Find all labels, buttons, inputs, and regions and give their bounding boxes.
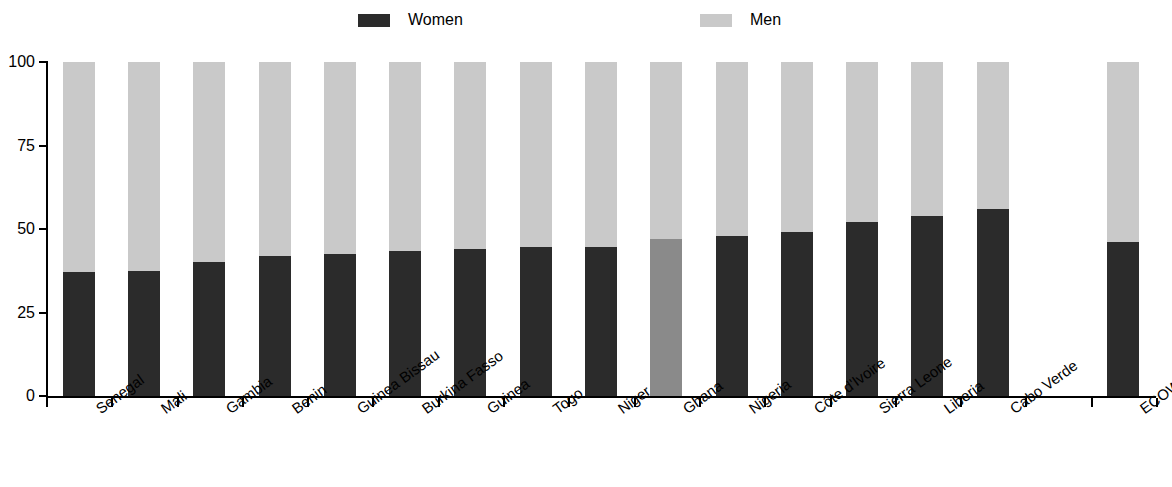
bar-segment-women — [977, 209, 1009, 396]
y-tick-label: 75 — [0, 138, 44, 154]
bar — [650, 62, 682, 396]
plot-area: 0255075100 — [46, 62, 1156, 396]
bar-segment-women — [716, 236, 748, 396]
bar-segment-men — [781, 62, 813, 232]
bar-segment-women — [781, 232, 813, 396]
bar-segment-men — [650, 62, 682, 239]
x-tick-label: Benin — [289, 404, 298, 416]
bar — [520, 62, 552, 396]
x-tick-label: Burkina Fasso — [419, 404, 428, 416]
x-tick-label: Senegal — [93, 404, 102, 416]
bar-segment-men — [389, 62, 421, 251]
bar — [716, 62, 748, 396]
x-tick-label: Ghana — [680, 404, 689, 416]
bar-segment-women — [63, 272, 95, 396]
x-tick-label: Togo — [550, 404, 559, 416]
bar — [324, 62, 356, 396]
bar — [63, 62, 95, 396]
bar — [1107, 62, 1139, 396]
y-tick-label: 25 — [0, 305, 44, 321]
bar-segment-men — [585, 62, 617, 247]
bar-segment-men — [977, 62, 1009, 209]
bar-segment-men — [846, 62, 878, 222]
bar-segment-men — [911, 62, 943, 216]
legend-item-men: Men — [700, 10, 781, 30]
legend-swatch-men — [700, 14, 732, 27]
stacked-bar-chart: Women Men 0255075100 SenegalMaliGambiaBe… — [0, 0, 1172, 487]
bar-segment-men — [454, 62, 486, 249]
bar-segment-men — [259, 62, 291, 256]
legend-item-women: Women — [358, 10, 463, 30]
bar-segment-women — [1107, 242, 1139, 396]
x-tick-label: Nigeria — [746, 404, 755, 416]
bar-segment-women — [520, 247, 552, 396]
y-tick-label: 0 — [0, 388, 44, 404]
bar-segment-men — [520, 62, 552, 247]
bar — [259, 62, 291, 396]
bar-segment-men — [716, 62, 748, 236]
bar — [193, 62, 225, 396]
x-tick — [46, 398, 48, 407]
x-tick-label: Sierra Leone — [876, 404, 885, 416]
bar-segment-men — [324, 62, 356, 254]
x-tick-label: Niger — [615, 404, 624, 416]
bar-segment-women — [324, 254, 356, 396]
bar — [781, 62, 813, 396]
x-tick-label: Liberia — [941, 404, 950, 416]
x-axis-line — [46, 396, 1156, 398]
bar — [454, 62, 486, 396]
bar-segment-women — [585, 247, 617, 396]
bar — [846, 62, 878, 396]
x-tick-label: Cabo Verde — [1007, 404, 1016, 416]
bar-segment-men — [63, 62, 95, 272]
bar-segment-men — [193, 62, 225, 262]
chart-legend: Women Men — [0, 8, 1172, 34]
x-tick — [1091, 398, 1093, 407]
x-tick-label: Guinea — [484, 404, 493, 416]
bar-segment-women — [193, 262, 225, 396]
bar-segment-women — [650, 239, 682, 396]
bar — [977, 62, 1009, 396]
legend-label-men: Men — [750, 12, 781, 28]
bar — [911, 62, 943, 396]
x-tick-label: Côte d'Ivoire — [811, 404, 820, 416]
y-tick-label: 50 — [0, 221, 44, 237]
bar — [389, 62, 421, 396]
y-tick-label: 100 — [0, 54, 44, 70]
x-tick-label: ECOWAS — [1137, 404, 1146, 416]
x-tick-label: Gambia — [223, 404, 232, 416]
x-tick-label: Guinea Bissau — [354, 404, 363, 416]
legend-swatch-women — [358, 14, 390, 27]
bar-segment-men — [128, 62, 160, 271]
bar — [585, 62, 617, 396]
x-tick-label: Mali — [158, 404, 167, 416]
bar-segment-men — [1107, 62, 1139, 242]
bar — [128, 62, 160, 396]
legend-label-women: Women — [408, 12, 463, 28]
